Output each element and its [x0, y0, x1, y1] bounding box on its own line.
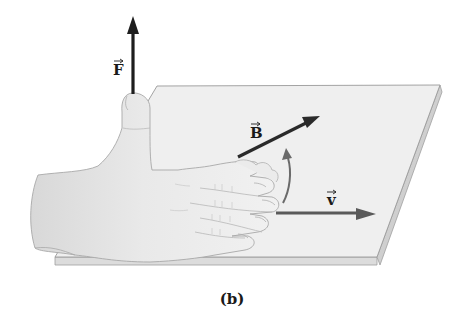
force-arrowhead [127, 16, 139, 34]
velocity-label: v [326, 190, 337, 209]
field-label-text: B [250, 124, 263, 142]
right-hand-rule-diagram: F B v (b) [0, 0, 466, 314]
force-label: F [113, 59, 124, 79]
field-label: B [250, 122, 263, 142]
figure-caption: (b) [220, 290, 245, 308]
force-label-text: F [113, 61, 124, 79]
force-vector [127, 16, 139, 94]
velocity-label-text: v [326, 191, 337, 209]
